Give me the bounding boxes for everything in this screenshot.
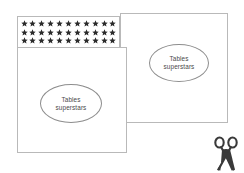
star-icon	[47, 29, 54, 36]
star-icon	[21, 20, 28, 27]
star-icon	[38, 37, 45, 44]
oval-label-line2: superstars	[164, 63, 195, 71]
star-icon	[74, 20, 81, 27]
star-banner	[17, 16, 120, 48]
star-icon	[92, 37, 99, 44]
star-icon	[83, 37, 90, 44]
oval-label-line2: superstars	[56, 104, 87, 112]
star-icon	[109, 20, 116, 27]
star-icon	[47, 20, 54, 27]
star-icon	[29, 37, 36, 44]
oval-label-line1: Tables	[169, 55, 188, 63]
star-icon	[109, 29, 116, 36]
scissors-icon	[210, 136, 242, 172]
star-icon	[65, 37, 72, 44]
oval-label-front: Tables superstars	[40, 84, 102, 123]
star-icon	[101, 37, 108, 44]
star-icon	[56, 37, 63, 44]
tables-superstars-card-front[interactable]: Tables superstars	[17, 47, 127, 153]
star-icon	[74, 37, 81, 44]
oval-label-back: Tables superstars	[149, 44, 209, 82]
star-row	[21, 20, 117, 28]
star-icon	[83, 29, 90, 36]
star-row	[21, 28, 117, 36]
star-icon	[92, 20, 99, 27]
star-icon	[29, 29, 36, 36]
star-icon	[65, 20, 72, 27]
star-icon	[109, 37, 116, 44]
star-icon	[56, 29, 63, 36]
star-icon	[83, 20, 90, 27]
star-icon	[101, 29, 108, 36]
star-row	[21, 37, 117, 45]
star-icon	[38, 29, 45, 36]
star-icon	[92, 29, 99, 36]
star-icon	[101, 20, 108, 27]
oval-label-line1: Tables	[61, 96, 80, 104]
star-icon	[47, 37, 54, 44]
star-icon	[74, 29, 81, 36]
star-icon	[38, 20, 45, 27]
star-icon	[21, 29, 28, 36]
star-icon	[21, 37, 28, 44]
star-icon	[65, 29, 72, 36]
star-icon	[29, 20, 36, 27]
worksheet-canvas: Tables superstars	[0, 0, 244, 173]
star-icon	[56, 20, 63, 27]
tables-superstars-card-back[interactable]: Tables superstars	[120, 13, 228, 123]
